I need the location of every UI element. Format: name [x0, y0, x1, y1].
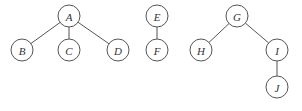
edge-a-b: [31, 22, 60, 43]
node-label: G: [233, 11, 241, 23]
node-label: D: [113, 45, 122, 57]
node-c: C: [58, 39, 80, 61]
node-label: A: [65, 11, 73, 23]
node-label: C: [65, 45, 73, 57]
node-d: D: [107, 39, 129, 61]
node-b: B: [11, 39, 33, 61]
node-e: E: [146, 5, 168, 27]
edge-g-i: [245, 23, 268, 43]
node-a: A: [58, 5, 80, 27]
node-label: E: [153, 11, 161, 23]
node-h: H: [190, 39, 212, 61]
node-f: F: [146, 39, 168, 61]
node-j: J: [266, 76, 288, 98]
node-label: B: [19, 45, 26, 57]
forest-diagram: ABCDEFGHIJ: [0, 0, 302, 111]
nodes: ABCDEFGHIJ: [11, 5, 288, 98]
node-i: I: [266, 39, 288, 61]
node-label: H: [196, 45, 206, 57]
node-g: G: [226, 5, 248, 27]
edge-a-d: [78, 22, 109, 43]
edge-g-h: [209, 24, 229, 43]
node-label: F: [153, 45, 161, 57]
